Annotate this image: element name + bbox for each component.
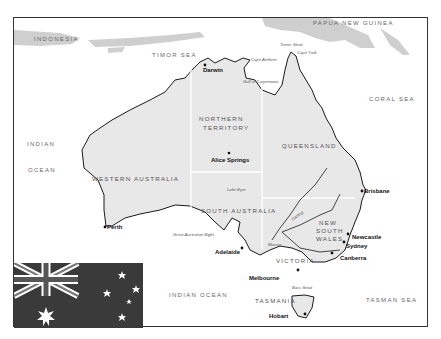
city-alice-springs: Alice Springs (211, 157, 249, 163)
label-indian-w1: INDIAN (27, 141, 55, 147)
label-cape-york: Cape York (297, 51, 316, 55)
union-jack (14, 263, 78, 296)
city-brisbane: Brisbane (364, 188, 390, 194)
label-qld: QUEENSLAND (282, 143, 337, 149)
label-bass-strait: Bass Strait (292, 286, 312, 290)
label-nt2: TERRITORY (203, 125, 249, 131)
city-perth: Perth (107, 224, 122, 230)
city-canberra: Canberra (340, 255, 366, 261)
label-wa: WESTERN AUSTRALIA (92, 176, 179, 182)
city-newcastle: Newcastle (352, 234, 381, 240)
label-tas: TASMANIA (255, 298, 296, 304)
label-cape-arnhem: Cape Arnhem (251, 58, 277, 62)
label-gulf-carpentaria: Gulf of Carpentaria (243, 80, 278, 84)
label-tasman-sea: TASMAN SEA (366, 297, 417, 303)
label-nsw1: NEW (319, 220, 337, 226)
label-sa: SOUTH AUSTRALIA (201, 208, 276, 214)
city-hobart: Hobart (269, 313, 288, 319)
label-lake-eyre: Lake Eyre (227, 188, 246, 192)
label-murray-river: Murray (268, 243, 281, 247)
label-indian-s: INDIAN OCEAN (169, 292, 228, 298)
city-adelaide: Adelaide (215, 249, 240, 255)
australian-flag (14, 263, 143, 328)
city-sydney: Sydney (346, 243, 367, 249)
label-nsw3: WALES (316, 236, 343, 242)
city-darwin: Darwin (203, 67, 223, 73)
label-coral-sea: CORAL SEA (369, 96, 415, 102)
label-great-australian-bight: Great Australian Bight (173, 233, 214, 237)
label-nsw2: SOUTH (316, 228, 344, 234)
label-vic: VICTORIA (276, 258, 315, 264)
label-indonesia: INDONESIA (34, 36, 79, 42)
label-png: PAPUA NEW GUINEA (313, 20, 394, 26)
label-torres-strait: Torres Strait (280, 43, 303, 47)
label-nt1: NORTHERN (199, 116, 244, 122)
label-indian-w2: OCEAN (28, 167, 56, 173)
label-timor-sea: TIMOR SEA (152, 52, 197, 58)
city-melbourne: Melbourne (249, 275, 279, 281)
